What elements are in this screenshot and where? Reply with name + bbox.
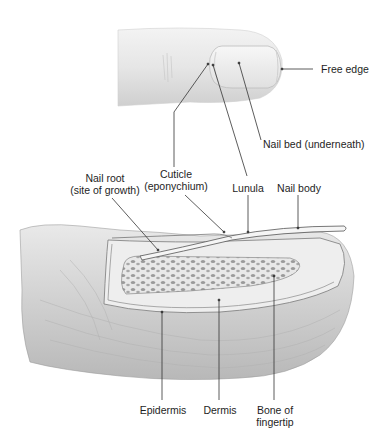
- label-cuticle-line2: (eponychium): [136, 180, 216, 192]
- label-epidermis: Epidermis: [136, 404, 190, 416]
- label-bone-line1: Bone of: [252, 404, 298, 416]
- label-bone-line2: fingertip: [252, 416, 298, 428]
- label-cuticle-line1: Cuticle: [136, 168, 216, 180]
- label-bone: Bone of fingertip: [252, 404, 298, 428]
- label-cuticle: Cuticle (eponychium): [136, 168, 216, 192]
- label-dermis: Dermis: [199, 404, 241, 416]
- nail-anatomy-diagram: Free edge Nail bed (underneath) Nail roo…: [0, 0, 389, 442]
- label-nail-bed: Nail bed (underneath): [263, 138, 365, 150]
- label-nail-body: Nail body: [272, 182, 326, 194]
- finger-external-view: [110, 26, 282, 110]
- label-lunula: Lunula: [223, 182, 273, 194]
- fingertip-cutaway-view: [10, 220, 354, 380]
- label-free-edge: Free edge: [321, 63, 369, 75]
